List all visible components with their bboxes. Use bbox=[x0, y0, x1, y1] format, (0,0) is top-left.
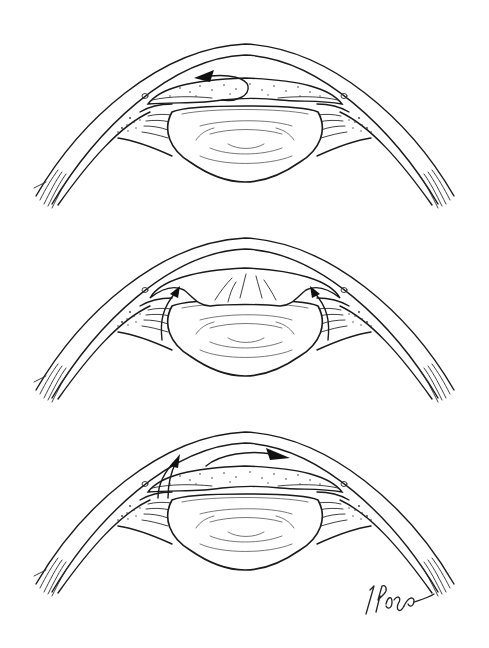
panel-3-eye-diagram bbox=[34, 432, 454, 596]
panel-1-eye-diagram bbox=[34, 44, 454, 208]
panel-2-eye-diagram bbox=[34, 238, 454, 402]
artist-signature: T Phelps bbox=[366, 586, 434, 614]
flow-arrow-right-icon bbox=[206, 453, 272, 467]
eye-cross-section-figure: Three cross-sectional illustrations of t… bbox=[0, 0, 489, 648]
arrowhead-right-icon bbox=[266, 448, 290, 460]
